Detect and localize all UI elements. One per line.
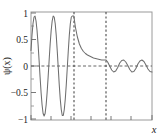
y-tick-label-0: 0 bbox=[23, 62, 28, 72]
wavefunction-plot: 1 0.5 0 −0.5 −1 ψ(x) x bbox=[0, 0, 165, 138]
y-tick-label-1: 1 bbox=[23, 9, 28, 19]
x-axis-label: x bbox=[151, 124, 157, 135]
y-axis-label: ψ(x) bbox=[1, 57, 13, 75]
chart-figure: 1 0.5 0 −0.5 −1 ψ(x) x bbox=[0, 0, 165, 138]
y-tick-label-neg0p5: −0.5 bbox=[11, 88, 28, 98]
y-tick-label-0p5: 0.5 bbox=[16, 35, 28, 45]
y-tick-label-neg1: −1 bbox=[18, 115, 28, 125]
